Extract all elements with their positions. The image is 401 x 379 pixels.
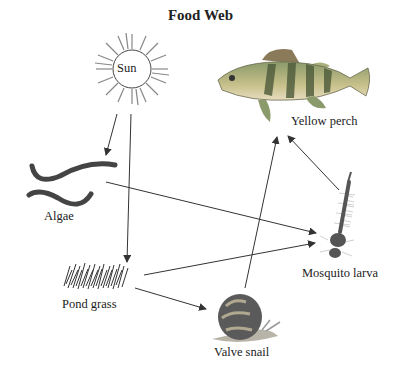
algae-icon (29, 164, 115, 204)
arrow-pond-grass-to-valve-snail (135, 288, 206, 309)
arrow-pond-grass-to-mosquito-larva (144, 243, 315, 275)
arrow-algae-to-mosquito-larva (106, 182, 316, 233)
food-web-diagram (0, 0, 401, 379)
grass-icon (64, 263, 128, 289)
pond-grass-label: Pond grass (62, 297, 117, 312)
algae-label: Algae (44, 209, 74, 224)
sun-label: Sun (117, 61, 136, 76)
valve-snail-label: Valve snail (214, 345, 269, 360)
larva-icon (320, 172, 355, 258)
yellow-perch-label: Yellow perch (291, 114, 357, 129)
mosquito-larva-label: Mosquito larva (302, 266, 378, 281)
arrow-valve-snail-to-yellow-perch (245, 137, 277, 288)
arrow-sun-to-algae (106, 114, 117, 155)
arrow-mosquito-larva-to-yellow-perch (288, 136, 339, 190)
fish-icon (218, 49, 370, 122)
snail-icon (212, 294, 280, 342)
